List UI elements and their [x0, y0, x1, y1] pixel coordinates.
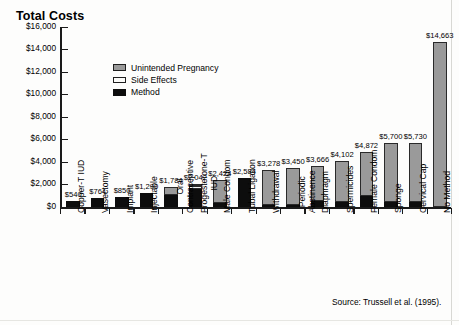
- x-axis-category-label: Copper-T IUD: [77, 160, 87, 213]
- page-right-border: [451, 0, 452, 325]
- chart-legend: Unintended Pregnancy Side Effects Method: [113, 63, 218, 100]
- bar-value-label: $5,700: [379, 132, 402, 141]
- x-axis-category-label: Implant: [126, 185, 136, 213]
- y-axis-tick-mark: [61, 117, 68, 118]
- y-axis-tick-label: $0: [47, 201, 56, 211]
- y-axis-tick-mark: [61, 27, 68, 28]
- bar-value-label: $5,730: [404, 132, 427, 141]
- y-axis-tick-mark: [61, 94, 68, 95]
- y-axis-tick-label: $12,000: [26, 66, 56, 76]
- legend-item-method: Method: [113, 88, 218, 97]
- x-axis-tick-mark: [60, 208, 61, 214]
- x-axis-category-label: Sponge: [394, 183, 404, 213]
- legend-label-method: Method: [131, 87, 160, 97]
- x-axis-category-label: Progesterone-T IUD: [200, 153, 219, 213]
- x-axis-category-label: No Method: [443, 171, 453, 213]
- legend-label-side-effects: Side Effects: [131, 75, 177, 85]
- y-axis-tick-mark: [61, 72, 68, 73]
- x-axis-category-label: Vasectomy: [101, 171, 111, 213]
- x-axis-category-label: Injectable: [150, 176, 160, 213]
- x-axis-category-label: Male Condom: [223, 160, 233, 214]
- legend-swatch-icon-method: [113, 89, 126, 96]
- legend-item-side-effects: Side Effects: [113, 75, 218, 84]
- bar-value-label: $14,663: [426, 31, 453, 40]
- y-axis-tick-mark: [61, 49, 68, 50]
- y-axis-tick-mark: [61, 139, 68, 140]
- x-axis-category-label: Withdrawal: [272, 170, 282, 213]
- y-axis-tick-mark: [61, 184, 68, 185]
- x-axis-category-label: Cervical Cap: [419, 164, 429, 213]
- bar-value-label: $3,666: [306, 155, 329, 164]
- x-axis-category-label: Periodic Abstinence: [298, 170, 317, 213]
- legend-label-pregnancy: Unintended Pregnancy: [131, 63, 218, 73]
- x-axis-category-label: Spermicides: [346, 166, 356, 213]
- bar-value-label: $3,450: [282, 157, 305, 166]
- bar-value-label: $3,278: [257, 159, 280, 168]
- page-bottom-border: [0, 320, 459, 321]
- y-axis-tick-label: $2,000: [31, 178, 56, 188]
- x-axis-category-label: Female Condom: [370, 149, 380, 213]
- y-axis-tick-label: $6,000: [31, 133, 56, 143]
- x-axis-category-label: Diaphragm: [321, 171, 331, 213]
- y-axis-tick-label: $8,000: [31, 111, 56, 121]
- bar-value-label: $4,102: [330, 150, 353, 159]
- y-axis-tick-label: $16,000: [26, 21, 56, 31]
- y-axis-tick-mark: [61, 162, 68, 163]
- y-axis-tick-label: $4,000: [31, 156, 56, 166]
- legend-swatch-icon-pregnancy: [113, 64, 126, 71]
- legend-swatch-icon-side-effects: [113, 77, 126, 84]
- x-axis-category-label: Tubal Ligation: [248, 159, 258, 213]
- legend-item-unintended-pregnancy: Unintended Pregnancy: [113, 63, 218, 72]
- source-note: Source: Trussell et al. (1995).: [332, 297, 441, 307]
- y-axis-tick-label: $10,000: [26, 88, 56, 98]
- x-axis-category-label: Oral Contraceptive: [176, 160, 195, 213]
- y-axis-tick-label: $14,000: [26, 43, 56, 53]
- chart-page: Total Costs $16,000$14,000$12,000$10,000…: [0, 0, 459, 325]
